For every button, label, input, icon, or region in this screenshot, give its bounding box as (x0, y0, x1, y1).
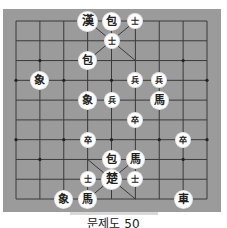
piece-han-soldier-icon[interactable]: 兵 (105, 93, 119, 107)
piece-han-elephant-icon[interactable]: 象 (79, 92, 96, 109)
piece-cho-horse-icon[interactable]: 馬 (127, 151, 144, 168)
puzzle-caption-text: 문제도 50 (81, 217, 145, 228)
piece-cho-cannon-icon[interactable]: 包 (103, 151, 120, 168)
piece-han-horse-icon[interactable]: 馬 (151, 92, 168, 109)
piece-han-general-icon[interactable]: 漢 (78, 12, 97, 31)
puzzle-caption: 문제도 50 (0, 214, 227, 228)
piece-cho-horse-icon[interactable]: 馬 (79, 191, 96, 208)
piece-cho-soldier-icon[interactable]: 卒 (81, 133, 95, 147)
piece-cho-soldier-icon[interactable]: 卒 (176, 133, 190, 147)
piece-cho-chariot-icon[interactable]: 車 (175, 191, 192, 208)
piece-han-guard-icon[interactable]: 士 (105, 34, 119, 48)
piece-cho-general-icon[interactable]: 楚 (102, 170, 121, 189)
piece-cho-elephant-icon[interactable]: 象 (55, 191, 72, 208)
piece-cho-guard-icon[interactable]: 士 (81, 172, 95, 186)
piece-han-cannon-icon[interactable]: 包 (103, 13, 120, 30)
